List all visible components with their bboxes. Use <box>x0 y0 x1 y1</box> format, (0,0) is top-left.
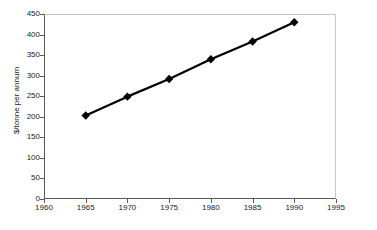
x-axis-tick-label: 1995 <box>316 203 356 212</box>
y-axis-tick-label: 0 <box>10 195 40 203</box>
data-point-marker <box>123 92 131 100</box>
x-axis-tick-mark <box>169 199 170 203</box>
data-point-marker <box>207 55 215 63</box>
plot-series-layer <box>44 14 336 199</box>
x-axis-tick-mark <box>86 199 87 203</box>
x-axis-tick-mark <box>127 199 128 203</box>
data-point-marker <box>165 75 173 83</box>
y-axis-tick-mark <box>40 35 44 36</box>
line-chart: 050100150200250300350400450 196019651970… <box>0 0 377 230</box>
y-axis-tick-mark <box>40 137 44 138</box>
y-axis-tick-mark <box>40 14 44 15</box>
data-point-marker <box>248 37 256 45</box>
x-axis-tick-label: 1970 <box>107 203 147 212</box>
x-axis-tick-mark <box>44 199 45 203</box>
y-axis-tick-mark <box>40 178 44 179</box>
x-axis-tick-label: 1985 <box>233 203 273 212</box>
data-point-marker <box>82 111 90 119</box>
y-axis-tick-label: 50 <box>10 174 40 182</box>
data-point-marker <box>290 18 298 26</box>
x-axis-tick-mark <box>211 199 212 203</box>
x-axis-tick-label: 1960 <box>24 203 64 212</box>
x-axis-tick-label: 1965 <box>66 203 106 212</box>
y-axis-title: $/tonne per annum <box>12 51 21 151</box>
y-axis-tick-label: 100 <box>10 154 40 162</box>
y-axis-tick-mark <box>40 55 44 56</box>
y-axis-tick-label: 450 <box>10 10 40 18</box>
y-axis-tick-mark <box>40 117 44 118</box>
x-axis-tick-label: 1975 <box>149 203 189 212</box>
y-axis-tick-mark <box>40 158 44 159</box>
y-axis-tick-mark <box>40 96 44 97</box>
series-line <box>86 22 295 115</box>
y-axis-tick-mark <box>40 76 44 77</box>
x-axis-tick-mark <box>336 199 337 203</box>
x-axis-tick-mark <box>253 199 254 203</box>
x-axis-tick-label: 1980 <box>191 203 231 212</box>
x-axis-tick-mark <box>294 199 295 203</box>
x-axis-tick-label: 1990 <box>274 203 314 212</box>
y-axis-tick-label: 400 <box>10 31 40 39</box>
